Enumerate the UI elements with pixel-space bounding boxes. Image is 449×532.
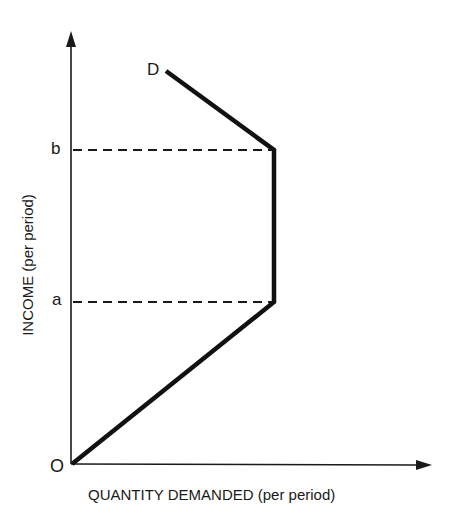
x-axis-label: QUANTITY DEMANDED (per period) [88,486,335,503]
y-marker-a: a [52,290,61,310]
x-axis [71,464,418,465]
x-axis-arrow-icon [416,460,432,470]
curve-label-d: D [147,60,159,80]
demand-curve [72,71,274,464]
y-marker-b: b [51,139,60,159]
income-consumption-curve-diagram [0,0,449,532]
y-axis-label: INCOME (per period) [19,194,36,336]
origin-label: O [50,456,64,477]
y-axis-arrow-icon [66,31,76,47]
